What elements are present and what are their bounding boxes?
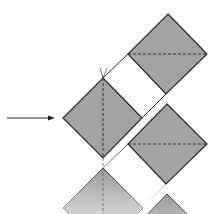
arrow-right-icon	[7, 116, 55, 121]
origami-diagram	[0, 0, 215, 214]
